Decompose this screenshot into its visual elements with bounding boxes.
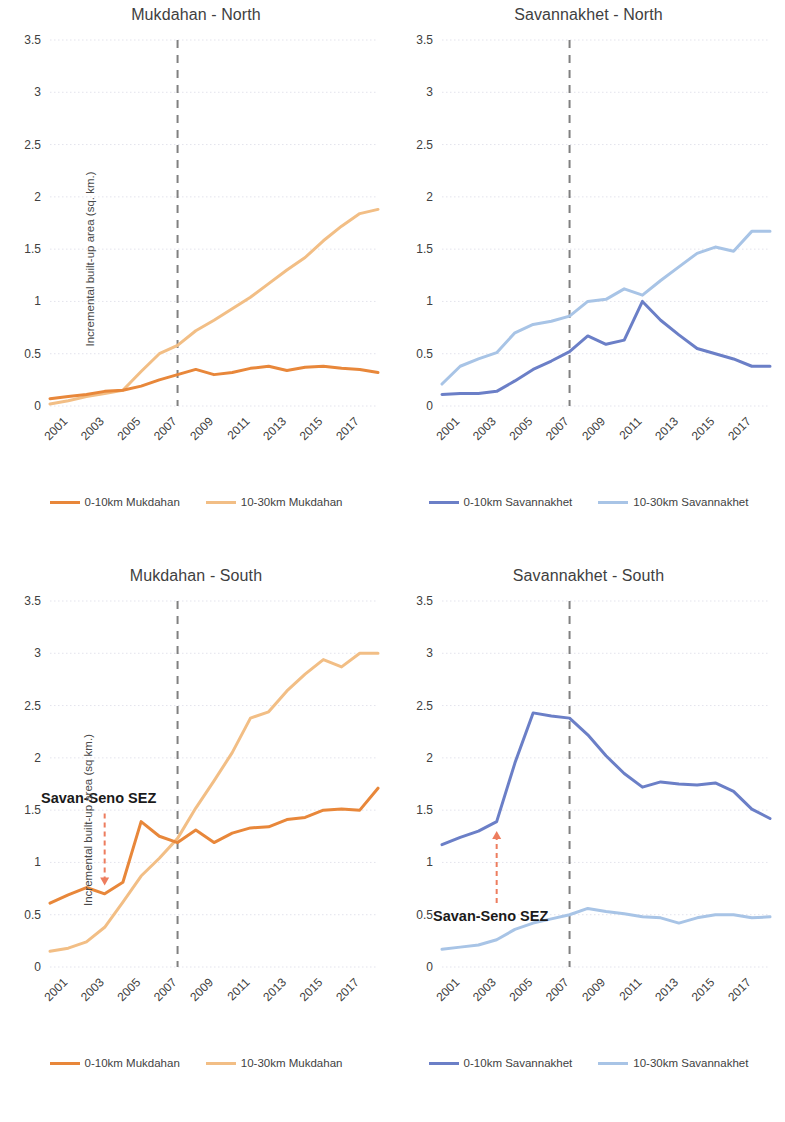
svg-text:1.5: 1.5 xyxy=(24,803,41,817)
legend-item[interactable]: 0-10km Mukdahan xyxy=(50,1057,180,1069)
svg-text:1: 1 xyxy=(426,294,433,308)
legend-swatch-icon xyxy=(598,501,628,504)
svg-text:2009: 2009 xyxy=(187,975,216,1004)
svg-text:3.5: 3.5 xyxy=(24,33,41,47)
legend-label: 10-30km Savannakhet xyxy=(633,1057,748,1069)
svg-text:2005: 2005 xyxy=(114,414,143,443)
legend: 0-10km Mukdahan 10-30km Mukdahan xyxy=(0,496,392,508)
svg-text:0: 0 xyxy=(34,399,41,413)
panel-title: Mukdahan - South xyxy=(0,561,392,585)
svg-text:2017: 2017 xyxy=(333,414,362,443)
svg-text:2013: 2013 xyxy=(652,414,681,443)
legend-item[interactable]: 10-30km Mukdahan xyxy=(206,1057,343,1069)
svg-text:2015: 2015 xyxy=(297,414,326,443)
plot-area: 00.511.522.533.5200120032005200720092011… xyxy=(392,585,785,1055)
svg-text:0: 0 xyxy=(426,399,433,413)
svg-text:2001: 2001 xyxy=(434,975,463,1004)
svg-text:2009: 2009 xyxy=(187,414,216,443)
plot-area: 00.511.522.533.5200120032005200720092011… xyxy=(392,24,785,494)
svg-text:2007: 2007 xyxy=(151,975,180,1004)
panel-title: Mukdahan - North xyxy=(0,0,392,24)
figure-grid: Mukdahan - North Incremental built-up ar… xyxy=(0,0,785,1122)
svg-text:2015: 2015 xyxy=(689,975,718,1004)
svg-text:3: 3 xyxy=(426,85,433,99)
y-axis-label: Incremental built-up area (sq. km.) xyxy=(84,171,96,346)
panel-title: Savannakhet - North xyxy=(392,0,785,24)
legend-swatch-icon xyxy=(50,1062,80,1065)
legend-label: 0-10km Mukdahan xyxy=(85,1057,180,1069)
svg-text:0.5: 0.5 xyxy=(416,347,433,361)
legend-label: 10-30km Savannakhet xyxy=(633,496,748,508)
legend-item[interactable]: 10-30km Savannakhet xyxy=(598,1057,748,1069)
legend: 0-10km Savannakhet 10-30km Savannakhet xyxy=(392,496,785,508)
svg-text:2017: 2017 xyxy=(725,414,754,443)
legend-label: 0-10km Savannakhet xyxy=(464,496,573,508)
legend-label: 10-30km Mukdahan xyxy=(241,496,343,508)
chart-canvas: 00.511.522.533.5200120032005200720092011… xyxy=(392,585,785,1055)
svg-text:2003: 2003 xyxy=(470,975,499,1004)
svg-text:2005: 2005 xyxy=(506,414,535,443)
svg-text:3: 3 xyxy=(34,646,41,660)
svg-text:2001: 2001 xyxy=(42,414,71,443)
svg-text:2013: 2013 xyxy=(260,414,289,443)
svg-text:3.5: 3.5 xyxy=(416,594,433,608)
panel-mukdahan-north: Mukdahan - North Incremental built-up ar… xyxy=(0,0,392,561)
svg-text:Savan-Seno SEZ: Savan-Seno SEZ xyxy=(433,908,548,924)
y-axis-label: Incremental built-up area (sq km.) xyxy=(82,734,94,906)
legend-swatch-icon xyxy=(206,501,236,504)
panel-mukdahan-south: Mukdahan - South Incremental built-up ar… xyxy=(0,561,392,1122)
svg-text:2011: 2011 xyxy=(224,414,252,442)
chart-canvas: 00.511.522.533.5200120032005200720092011… xyxy=(0,24,392,494)
svg-text:2.5: 2.5 xyxy=(416,699,433,713)
legend: 0-10km Mukdahan 10-30km Mukdahan xyxy=(0,1057,392,1069)
svg-text:2007: 2007 xyxy=(543,414,572,443)
svg-text:2003: 2003 xyxy=(78,414,107,443)
svg-text:2009: 2009 xyxy=(579,975,608,1004)
svg-text:0: 0 xyxy=(426,960,433,974)
svg-text:2013: 2013 xyxy=(652,975,681,1004)
svg-text:2009: 2009 xyxy=(579,414,608,443)
svg-text:2003: 2003 xyxy=(470,414,499,443)
svg-text:3.5: 3.5 xyxy=(416,33,433,47)
svg-text:2: 2 xyxy=(426,190,433,204)
legend-label: 0-10km Savannakhet xyxy=(464,1057,573,1069)
svg-text:2017: 2017 xyxy=(333,975,362,1004)
legend-swatch-icon xyxy=(429,501,459,504)
svg-text:0: 0 xyxy=(34,960,41,974)
plot-area: Incremental built-up area (sq. km.) 00.5… xyxy=(0,24,392,494)
svg-text:2015: 2015 xyxy=(297,975,326,1004)
svg-text:0.5: 0.5 xyxy=(24,347,41,361)
legend-swatch-icon xyxy=(598,1062,628,1065)
legend: 0-10km Savannakhet 10-30km Savannakhet xyxy=(392,1057,785,1069)
legend-item[interactable]: 0-10km Mukdahan xyxy=(50,496,180,508)
svg-text:1.5: 1.5 xyxy=(416,242,433,256)
legend-label: 0-10km Mukdahan xyxy=(85,496,180,508)
legend-swatch-icon xyxy=(50,501,80,504)
svg-text:1.5: 1.5 xyxy=(416,803,433,817)
svg-text:2: 2 xyxy=(426,751,433,765)
legend-item[interactable]: 10-30km Savannakhet xyxy=(598,496,748,508)
svg-text:3: 3 xyxy=(34,85,41,99)
legend-item[interactable]: 0-10km Savannakhet xyxy=(429,1057,573,1069)
svg-text:2015: 2015 xyxy=(689,414,718,443)
svg-text:2011: 2011 xyxy=(616,975,644,1003)
svg-text:2: 2 xyxy=(34,190,41,204)
svg-text:2007: 2007 xyxy=(151,414,180,443)
svg-text:2001: 2001 xyxy=(434,414,463,443)
legend-item[interactable]: 0-10km Savannakhet xyxy=(429,496,573,508)
svg-text:2.5: 2.5 xyxy=(416,138,433,152)
svg-text:0.5: 0.5 xyxy=(416,908,433,922)
legend-item[interactable]: 10-30km Mukdahan xyxy=(206,496,343,508)
svg-text:2013: 2013 xyxy=(260,975,289,1004)
svg-text:2011: 2011 xyxy=(616,414,644,442)
panel-title: Savannakhet - South xyxy=(392,561,785,585)
svg-text:0.5: 0.5 xyxy=(24,908,41,922)
svg-text:3.5: 3.5 xyxy=(24,594,41,608)
svg-text:2017: 2017 xyxy=(725,975,754,1004)
svg-text:1: 1 xyxy=(34,855,41,869)
plot-area: Incremental built-up area (sq km.) 00.51… xyxy=(0,585,392,1055)
svg-text:2011: 2011 xyxy=(224,975,252,1003)
legend-swatch-icon xyxy=(429,1062,459,1065)
svg-text:Savan-Seno SEZ: Savan-Seno SEZ xyxy=(41,790,156,806)
panel-savannakhet-north: Savannakhet - North 00.511.522.533.52001… xyxy=(392,0,785,561)
